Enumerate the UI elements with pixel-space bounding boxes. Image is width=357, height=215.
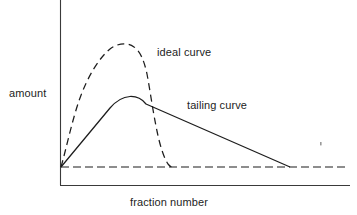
y-axis-label: amount (9, 87, 46, 99)
tailing-curve-annotation-label: tailing curve (187, 99, 247, 111)
x-axis-label: fraction number (130, 196, 208, 208)
chart-plot-area (0, 0, 357, 215)
tailing-curve-path (61, 96, 290, 167)
scan-speck-artifact (320, 142, 322, 145)
ideal-curve-path (61, 44, 172, 167)
ideal-curve-annotation-label: ideal curve (157, 46, 211, 58)
chromatography-elution-figure: amount fraction number ideal curve taili… (0, 0, 357, 215)
